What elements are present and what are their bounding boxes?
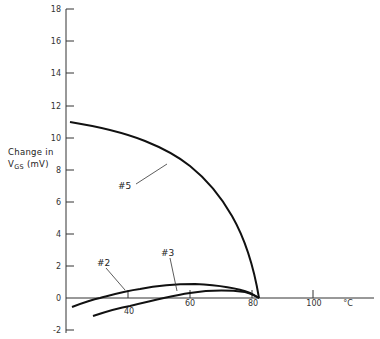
x-tick-label: 40 xyxy=(124,307,134,316)
curve-2 xyxy=(72,284,259,307)
x-tick-label: 100 xyxy=(306,299,321,308)
x-tick-label: 80 xyxy=(248,299,258,308)
y-tick-label: -2 xyxy=(53,326,61,335)
y-tick-label: 10 xyxy=(51,134,61,143)
y-tick-label: 12 xyxy=(51,102,61,111)
curve-label-5: #5 xyxy=(118,181,131,191)
y-tick-label: 2 xyxy=(56,262,61,271)
leader-line-5 xyxy=(136,164,167,184)
curve-label-2: #2 xyxy=(97,258,110,268)
y-tick-label: 6 xyxy=(56,198,61,207)
y-ticks xyxy=(66,9,74,330)
y-tick-label: 18 xyxy=(51,5,61,14)
y-axis-title: Change in VGS (mV) xyxy=(8,147,54,171)
y-tick-label: 8 xyxy=(56,166,61,175)
curve-5 xyxy=(70,122,259,298)
y-tick-label: 4 xyxy=(56,230,61,239)
chart: 18 16 14 12 10 8 6 4 2 0 -2 Change in VG… xyxy=(0,0,380,339)
y-tick-label: 0 xyxy=(56,294,61,303)
curve-label-3: #3 xyxy=(161,248,174,258)
leader-line-3 xyxy=(170,258,177,291)
y-tick-label: 16 xyxy=(51,37,61,46)
y-tick-labels: 18 16 14 12 10 8 6 4 2 0 -2 xyxy=(51,5,61,335)
y-axis-title-line1: Change in xyxy=(8,147,54,157)
x-axis-unit: °C xyxy=(343,299,353,308)
y-axis-title-line2: VGS (mV) xyxy=(8,159,49,171)
x-tick-label: 60 xyxy=(185,299,195,308)
curve-3 xyxy=(93,291,259,316)
y-tick-label: 14 xyxy=(51,69,61,78)
leader-line-2 xyxy=(106,268,125,290)
